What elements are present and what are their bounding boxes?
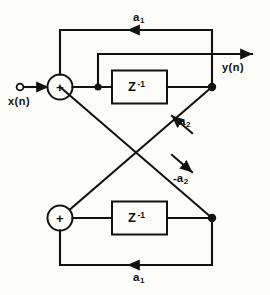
coef-a2-subscript: 2 [185,120,190,129]
coefficient-neg-a2: -a2 [173,173,188,186]
arrow-neg-a2 [172,155,192,172]
coefficient-a1-bottom: a1 [133,272,144,285]
junction-dot-bottom-right [208,214,216,222]
coefficient-a2: a2 [179,116,190,129]
delay-top-exponent: -1 [136,79,145,89]
coef-a1-bottom-subscript: 1 [139,276,144,285]
coef-neg-a2-subscript: 2 [183,177,188,186]
signal-flow-diagram [0,0,270,295]
adder-top-plus-symbol: + [56,81,64,94]
output-signal-label: y(n) [222,62,244,73]
coef-a1-top-subscript: 1 [139,16,144,25]
junction-dot-top-right [208,83,216,91]
figure-canvas: + + Z-1 Z-1 x(n) y(n) a1 a2 -a2 a1 [0,0,270,295]
coefficient-a1-top: a1 [133,12,144,25]
input-signal-label: x(n) [8,96,30,107]
delay-bottom-exponent: -1 [136,210,145,220]
delay-top-label: Z-1 [128,80,145,93]
delay-bottom-label: Z-1 [128,211,145,224]
adder-bottom-plus-symbol: + [56,212,64,225]
input-terminal-icon [17,84,24,91]
junction-dot-top-branch [94,83,101,90]
